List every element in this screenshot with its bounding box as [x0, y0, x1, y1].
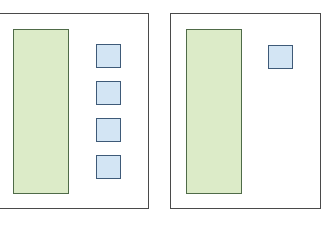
- blue-square: [96, 118, 121, 142]
- green-tall-rectangle: [13, 29, 69, 194]
- blue-square: [268, 45, 293, 69]
- green-tall-rectangle: [186, 29, 242, 194]
- blue-square: [96, 155, 121, 179]
- blue-square: [96, 81, 121, 105]
- blue-square: [96, 44, 121, 68]
